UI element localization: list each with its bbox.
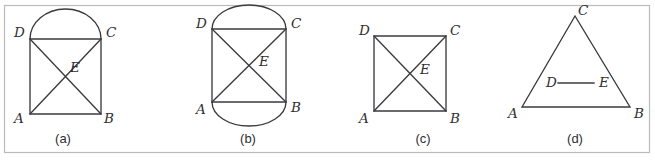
figure-a-label-E: E [69, 59, 80, 75]
figure-d-label-C: C [578, 2, 589, 18]
figure-d-label-A: A [506, 105, 518, 121]
figure-b-label-B: B [290, 99, 301, 115]
figure-d-caption: (d) [567, 131, 583, 146]
figure-d-label-D: D [545, 74, 557, 90]
geometry-figure-svg: A B C D E (a) A B C D E (b) A B [0, 0, 655, 161]
figure-a-label-C: C [106, 24, 117, 40]
figure-b-caption: (b) [240, 131, 256, 146]
figure-c-label-C: C [450, 22, 461, 38]
figure-b-label-A: A [194, 101, 206, 117]
figure-b-label-C: C [291, 15, 302, 31]
figure-c-label-E: E [419, 61, 430, 77]
figure-c-label-D: D [358, 22, 370, 38]
figure-c-label-B: B [449, 110, 460, 126]
figure-d-label-B: B [633, 105, 644, 121]
figure-a-label-D: D [13, 24, 25, 40]
figure-b-label-D: D [195, 15, 207, 31]
figure-d-label-E: E [598, 74, 609, 90]
figure-c-caption: (c) [415, 131, 430, 146]
figure-c-label-A: A [357, 110, 369, 126]
figure-panel: A B C D E (a) A B C D E (b) A B [0, 0, 655, 161]
figure-a-caption: (a) [55, 131, 71, 146]
figure-b-label-E: E [258, 53, 269, 69]
figure-a-label-A: A [12, 110, 24, 126]
figure-a-label-B: B [103, 110, 114, 126]
